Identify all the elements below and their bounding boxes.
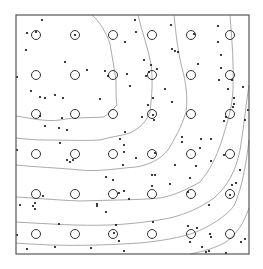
- data-point: [220, 54, 222, 56]
- data-point: [26, 32, 28, 34]
- data-point: [58, 127, 60, 129]
- data-point: [72, 159, 74, 161]
- data-point: [123, 250, 125, 252]
- contour-line: [16, 85, 249, 225]
- data-point: [233, 103, 235, 105]
- data-point: [205, 251, 207, 253]
- data-point: [235, 182, 237, 184]
- data-point: [210, 236, 212, 238]
- data-point: [39, 96, 41, 98]
- data-point: [148, 71, 150, 73]
- sample-circle: [109, 230, 118, 239]
- data-point: [69, 161, 71, 163]
- data-point: [232, 106, 234, 108]
- data-point: [208, 204, 210, 206]
- data-point: [123, 144, 125, 146]
- data-point: [118, 192, 120, 194]
- data-point: [244, 238, 246, 240]
- data-point: [152, 114, 154, 116]
- data-point: [35, 31, 37, 33]
- data-point: [34, 208, 36, 210]
- data-point: [181, 141, 183, 143]
- data-point: [86, 69, 88, 71]
- data-point: [143, 59, 145, 61]
- data-point: [26, 248, 28, 250]
- data-point: [96, 205, 98, 207]
- sample-circle: [187, 190, 196, 199]
- data-point: [62, 97, 64, 99]
- sample-circle: [226, 150, 235, 159]
- sample-circle: [187, 150, 196, 159]
- plot-frame: [16, 15, 249, 254]
- data-point: [187, 191, 189, 193]
- data-point: [113, 232, 115, 234]
- data-point: [193, 33, 195, 35]
- data-point: [152, 221, 154, 223]
- sample-circle: [187, 110, 196, 119]
- data-point: [118, 240, 120, 242]
- data-point: [181, 136, 183, 138]
- data-point: [54, 246, 56, 248]
- data-point: [145, 75, 147, 77]
- data-point: [225, 116, 227, 118]
- sample-circle: [32, 110, 41, 119]
- sample-circle: [226, 230, 235, 239]
- sample-circle: [71, 230, 80, 239]
- data-point: [90, 247, 92, 249]
- data-point: [229, 194, 231, 196]
- data-point: [177, 51, 179, 53]
- data-point: [174, 164, 176, 166]
- data-point: [119, 138, 121, 140]
- sample-circle: [71, 71, 80, 80]
- data-point: [129, 85, 131, 87]
- data-point: [135, 31, 137, 33]
- data-point: [122, 164, 124, 166]
- data-point: [223, 120, 225, 122]
- data-point: [123, 190, 125, 192]
- data-point: [200, 138, 202, 140]
- data-point: [199, 147, 201, 149]
- data-point: [171, 48, 173, 50]
- data-point: [44, 97, 46, 99]
- data-point: [209, 233, 211, 235]
- data-point: [152, 97, 154, 99]
- data-point: [233, 97, 235, 99]
- sample-circle: [109, 190, 118, 199]
- data-point: [223, 154, 225, 156]
- data-point: [59, 142, 61, 144]
- data-point: [242, 86, 244, 88]
- sample-circle: [187, 71, 196, 80]
- data-point: [96, 203, 98, 205]
- sample-circle: [71, 150, 80, 159]
- contour-line: [16, 15, 117, 121]
- sample-circle: [32, 71, 41, 80]
- data-point: [107, 75, 109, 77]
- data-point: [105, 176, 107, 178]
- data-point: [115, 224, 117, 226]
- data-point: [150, 64, 152, 66]
- data-point: [187, 225, 189, 227]
- data-point: [32, 205, 34, 207]
- data-point: [61, 117, 63, 119]
- data-point: [154, 152, 156, 154]
- data-point: [64, 61, 66, 63]
- data-point: [34, 202, 36, 204]
- data-point: [126, 73, 128, 75]
- data-point: [66, 129, 68, 131]
- sample-circle: [226, 31, 235, 40]
- data-point: [128, 198, 130, 200]
- data-point: [54, 94, 56, 96]
- data-point: [147, 104, 149, 106]
- data-point: [19, 204, 21, 206]
- data-point: [189, 241, 191, 243]
- data-point: [217, 41, 219, 43]
- data-point: [169, 183, 171, 185]
- sample-circle: [148, 230, 157, 239]
- data-point: [196, 227, 198, 229]
- data-point: [134, 19, 136, 21]
- data-point: [25, 49, 27, 51]
- data-point: [153, 119, 155, 121]
- data-point: [154, 174, 156, 176]
- data-point: [218, 79, 220, 81]
- data-point: [112, 179, 114, 181]
